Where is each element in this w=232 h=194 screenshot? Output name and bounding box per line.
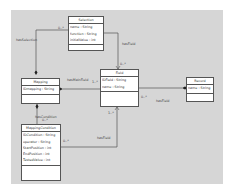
class-name: Field xyxy=(101,70,138,77)
class-name: MappingCondition xyxy=(22,125,60,132)
operations-compartment xyxy=(22,95,59,100)
class-selection[interactable]: Selection name : String function : Strin… xyxy=(68,16,104,51)
attribute: name : String xyxy=(102,84,137,90)
class-name: Record xyxy=(187,78,213,85)
label-has-selection: hasSelection xyxy=(16,38,37,42)
multiplicity-selection-field: 0..* xyxy=(120,62,126,66)
attribute: initialValue : int xyxy=(70,37,102,43)
diamond-mapping-bottom xyxy=(36,104,39,109)
attribute: TestedValue : int xyxy=(23,158,59,164)
multiplicity-condition-field-target: 1..* xyxy=(108,111,114,115)
label-record-field: hasField xyxy=(156,99,169,103)
multiplicity-has-main-field: 1..* xyxy=(92,80,98,84)
class-mapping-condition[interactable]: MappingCondition IDCondition : String op… xyxy=(21,124,61,181)
label-has-main-field: hasMainField xyxy=(67,78,88,82)
line-has-selection xyxy=(36,30,68,70)
class-mapping[interactable]: Mapping IDmapping : String xyxy=(21,78,60,104)
operations-compartment xyxy=(101,92,138,97)
operations-compartment xyxy=(22,166,60,171)
operations-compartment xyxy=(187,94,213,99)
multiplicity-has-condition: 0..* xyxy=(42,118,48,122)
attribute: IDmapping : String xyxy=(23,87,58,93)
line-selection-field xyxy=(104,33,118,69)
label-selection-field: hasField xyxy=(122,42,135,46)
label-condition-field: hasField xyxy=(97,136,110,140)
class-name: Mapping xyxy=(22,79,59,86)
multiplicity-record-field: 0..* xyxy=(141,95,147,99)
class-name: Selection xyxy=(69,17,103,24)
class-field[interactable]: Field IDField : String name : String xyxy=(100,69,139,107)
multiplicity-condition-field-source: 0..* xyxy=(63,139,69,143)
multiplicity-has-selection: 0..* xyxy=(58,26,64,30)
operations-compartment xyxy=(69,45,103,50)
attribute: name : String xyxy=(188,86,212,92)
diamond-mapping-top xyxy=(35,70,38,75)
class-record[interactable]: Record name : String xyxy=(186,77,214,102)
